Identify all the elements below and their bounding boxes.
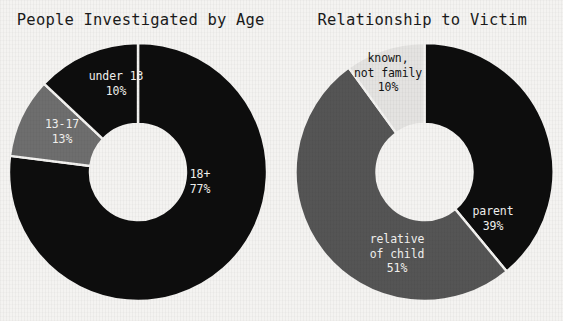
slice-name-text: of child [369, 247, 424, 261]
slice-percent-text: 77% [190, 182, 211, 196]
slice-percent-text: 13% [52, 132, 73, 146]
slice-percent-text: 39% [482, 219, 503, 233]
slice-name-text: parent [472, 204, 513, 218]
slice-name-text: known, [367, 51, 408, 65]
chart-title-right: Relationship to Victim [282, 11, 563, 29]
slice-percent-text: 10% [377, 80, 398, 94]
donut-chart-relationship-to-victim: parent39%relativeof child51%known,not fa… [282, 0, 563, 321]
slice-name-text: under 13 [89, 69, 144, 83]
donut-slice-label: 18+77% [190, 167, 211, 196]
charts-row: People Investigated by Age 18+77%under 1… [0, 0, 563, 321]
chart-panel-people-investigated-by-age: People Investigated by Age 18+77%under 1… [0, 0, 282, 321]
slice-name-text: 13-17 [45, 117, 79, 131]
chart-title-left: People Investigated by Age [0, 11, 282, 29]
slice-percent-text: 51% [386, 261, 407, 275]
slice-name-text: 18+ [190, 167, 211, 181]
slice-percent-text: 10% [106, 84, 127, 98]
chart-panel-relationship-to-victim: Relationship to Victim parent39%relative… [282, 0, 563, 321]
donut-chart-people-investigated-by-age: 18+77%under 1310%13-1713% [0, 0, 282, 321]
slice-name-text: not family [353, 66, 421, 80]
slice-name-text: relative [369, 232, 424, 246]
